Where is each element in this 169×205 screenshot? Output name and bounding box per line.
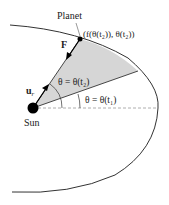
planet-pointer [76, 23, 80, 36]
sun-label: Sun [24, 117, 40, 128]
force-label: F [61, 39, 67, 50]
planet-coord-label: (f(θ(t₂)), θ(t₂)) [83, 29, 134, 39]
orbit-diagram: Planet (f(θ(t₂)), θ(t₂)) F ur θ = θ(t₂) … [0, 0, 169, 205]
planet-dot [78, 37, 83, 42]
angle-arc-theta1 [78, 94, 80, 108]
sun-icon [28, 103, 39, 114]
planet-label: Planet [57, 10, 82, 21]
theta2-label: θ = θ(t₂) [58, 77, 90, 88]
unit-radial-label: ur [26, 85, 35, 98]
theta1-label: θ = θ(t₁) [85, 95, 117, 106]
